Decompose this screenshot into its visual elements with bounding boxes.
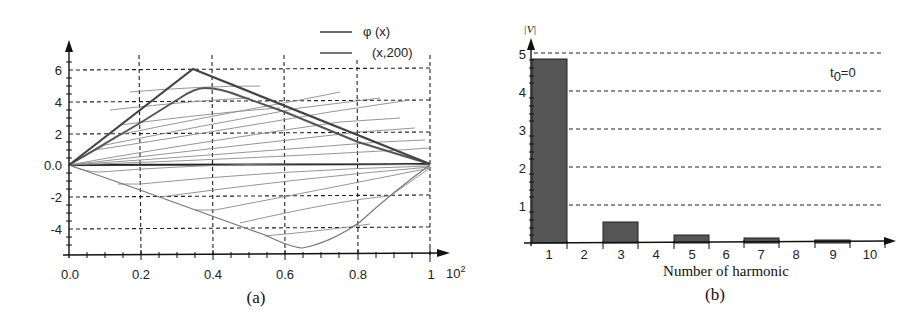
chart-b-xtick: 3 bbox=[617, 247, 624, 262]
chart-b-ylabel: |V| bbox=[524, 23, 537, 35]
chart-b-annotation: t0=0 bbox=[830, 65, 856, 84]
legend-label-phi: φ (x) bbox=[363, 24, 390, 39]
chart-b-xtick: 10 bbox=[863, 247, 877, 262]
chart-b-xtick: 7 bbox=[757, 247, 764, 262]
chart-a-ytick: -2 bbox=[50, 190, 62, 205]
chart-a-y-arrow-icon bbox=[65, 40, 73, 52]
chart-a-x-unit: 102 bbox=[446, 264, 465, 281]
chart-a-ytick: 0.0 bbox=[44, 158, 62, 173]
legend-label-x200: (x,200) bbox=[372, 45, 412, 60]
chart-b-xtick: 4 bbox=[652, 247, 659, 262]
chart-a-ytick: 6 bbox=[55, 63, 62, 78]
chart-a-xtick: 0.2 bbox=[132, 267, 150, 282]
chart-b-ytick: 4 bbox=[519, 85, 526, 100]
chart-b-bars bbox=[532, 59, 850, 243]
chart-b-xtick: 6 bbox=[722, 247, 729, 262]
figure: 6 4 2 0.0 -2 -4 0.0 0.2 0.4 0.6 0.8 1 10… bbox=[0, 0, 922, 320]
chart-a-family-upper bbox=[69, 86, 430, 165]
chart-a-family-lower bbox=[69, 164, 430, 236]
chart-b-caption: (b) bbox=[705, 285, 725, 304]
chart-b: 5 4 3 2 1 1 2 3 4 5 6 7 8 9 10 |V| t0=0 … bbox=[519, 23, 896, 304]
chart-a-series-x200 bbox=[69, 88, 430, 165]
bar-harmonic-1 bbox=[532, 59, 567, 243]
chart-a-x-arrow-icon bbox=[437, 249, 450, 257]
chart-b-xtick: 8 bbox=[792, 247, 799, 262]
chart-a: 6 4 2 0.0 -2 -4 0.0 0.2 0.4 0.6 0.8 1 10… bbox=[44, 24, 466, 307]
bar-harmonic-3 bbox=[603, 222, 638, 243]
chart-a-xtick: 0.8 bbox=[349, 267, 367, 282]
chart-a-xtick: 1 bbox=[427, 267, 434, 282]
chart-a-xtick: 0.0 bbox=[61, 267, 79, 282]
chart-a-xtick: 0.6 bbox=[276, 267, 294, 282]
chart-b-ytick: 3 bbox=[519, 123, 526, 138]
chart-a-xtick: 0.4 bbox=[204, 267, 222, 282]
chart-b-xtick: 9 bbox=[829, 247, 836, 262]
chart-b-y-arrow-icon bbox=[527, 38, 535, 50]
chart-a-caption: (a) bbox=[247, 288, 266, 307]
chart-a-ytick: -4 bbox=[50, 222, 62, 237]
chart-a-lower-envelope bbox=[69, 165, 430, 248]
chart-b-xtick: 1 bbox=[545, 247, 552, 262]
chart-b-ticks bbox=[529, 60, 885, 249]
chart-a-ytick: 4 bbox=[55, 95, 62, 110]
chart-b-ytick: 2 bbox=[519, 161, 526, 176]
chart-b-ytick: 5 bbox=[519, 47, 526, 62]
chart-b-xtick: 2 bbox=[580, 247, 587, 262]
chart-a-ytick: 2 bbox=[55, 127, 62, 142]
chart-b-xtick: 5 bbox=[688, 247, 695, 262]
chart-b-xlabel: Number of harmonic bbox=[663, 263, 789, 279]
chart-b-x-arrow-icon bbox=[884, 237, 896, 245]
chart-a-legend: φ (x) (x,200) bbox=[320, 24, 412, 60]
chart-b-ytick: 1 bbox=[519, 199, 526, 214]
